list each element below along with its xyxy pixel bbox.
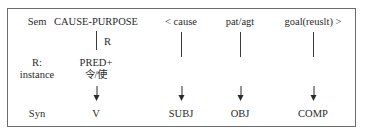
pat-agt-link-line: [240, 32, 241, 57]
arrow-down-icon: [178, 86, 185, 101]
arrow-down-icon: [93, 86, 100, 101]
syn-comp: COMP: [298, 108, 328, 120]
relation-label: R: [104, 36, 111, 48]
row-label-sem: Sem: [28, 16, 47, 28]
pred-label: PRED+: [80, 57, 113, 69]
row-label-syn: Syn: [29, 108, 45, 120]
sem-goal-result: goal(reuslt) >: [285, 16, 342, 28]
syn-subj: SUBJ: [169, 108, 194, 120]
arrow-down-icon: [237, 86, 244, 101]
sem-cause: < cause: [165, 16, 197, 28]
sem-pat-agt: pat/agt: [226, 16, 255, 28]
syn-obj: OBJ: [231, 108, 250, 120]
goal-link-line: [313, 32, 314, 57]
row-label-r: R:: [32, 57, 42, 69]
sem-cause-purpose: CAUSE-PURPOSE: [54, 16, 138, 28]
arrow-down-icon: [310, 86, 317, 101]
cause-link-line: [181, 32, 182, 57]
relation-line: [96, 31, 97, 50]
pred-causative-verbs: 令/使: [85, 69, 108, 81]
row-label-instance: instance: [20, 69, 54, 81]
syn-v: V: [92, 108, 100, 120]
